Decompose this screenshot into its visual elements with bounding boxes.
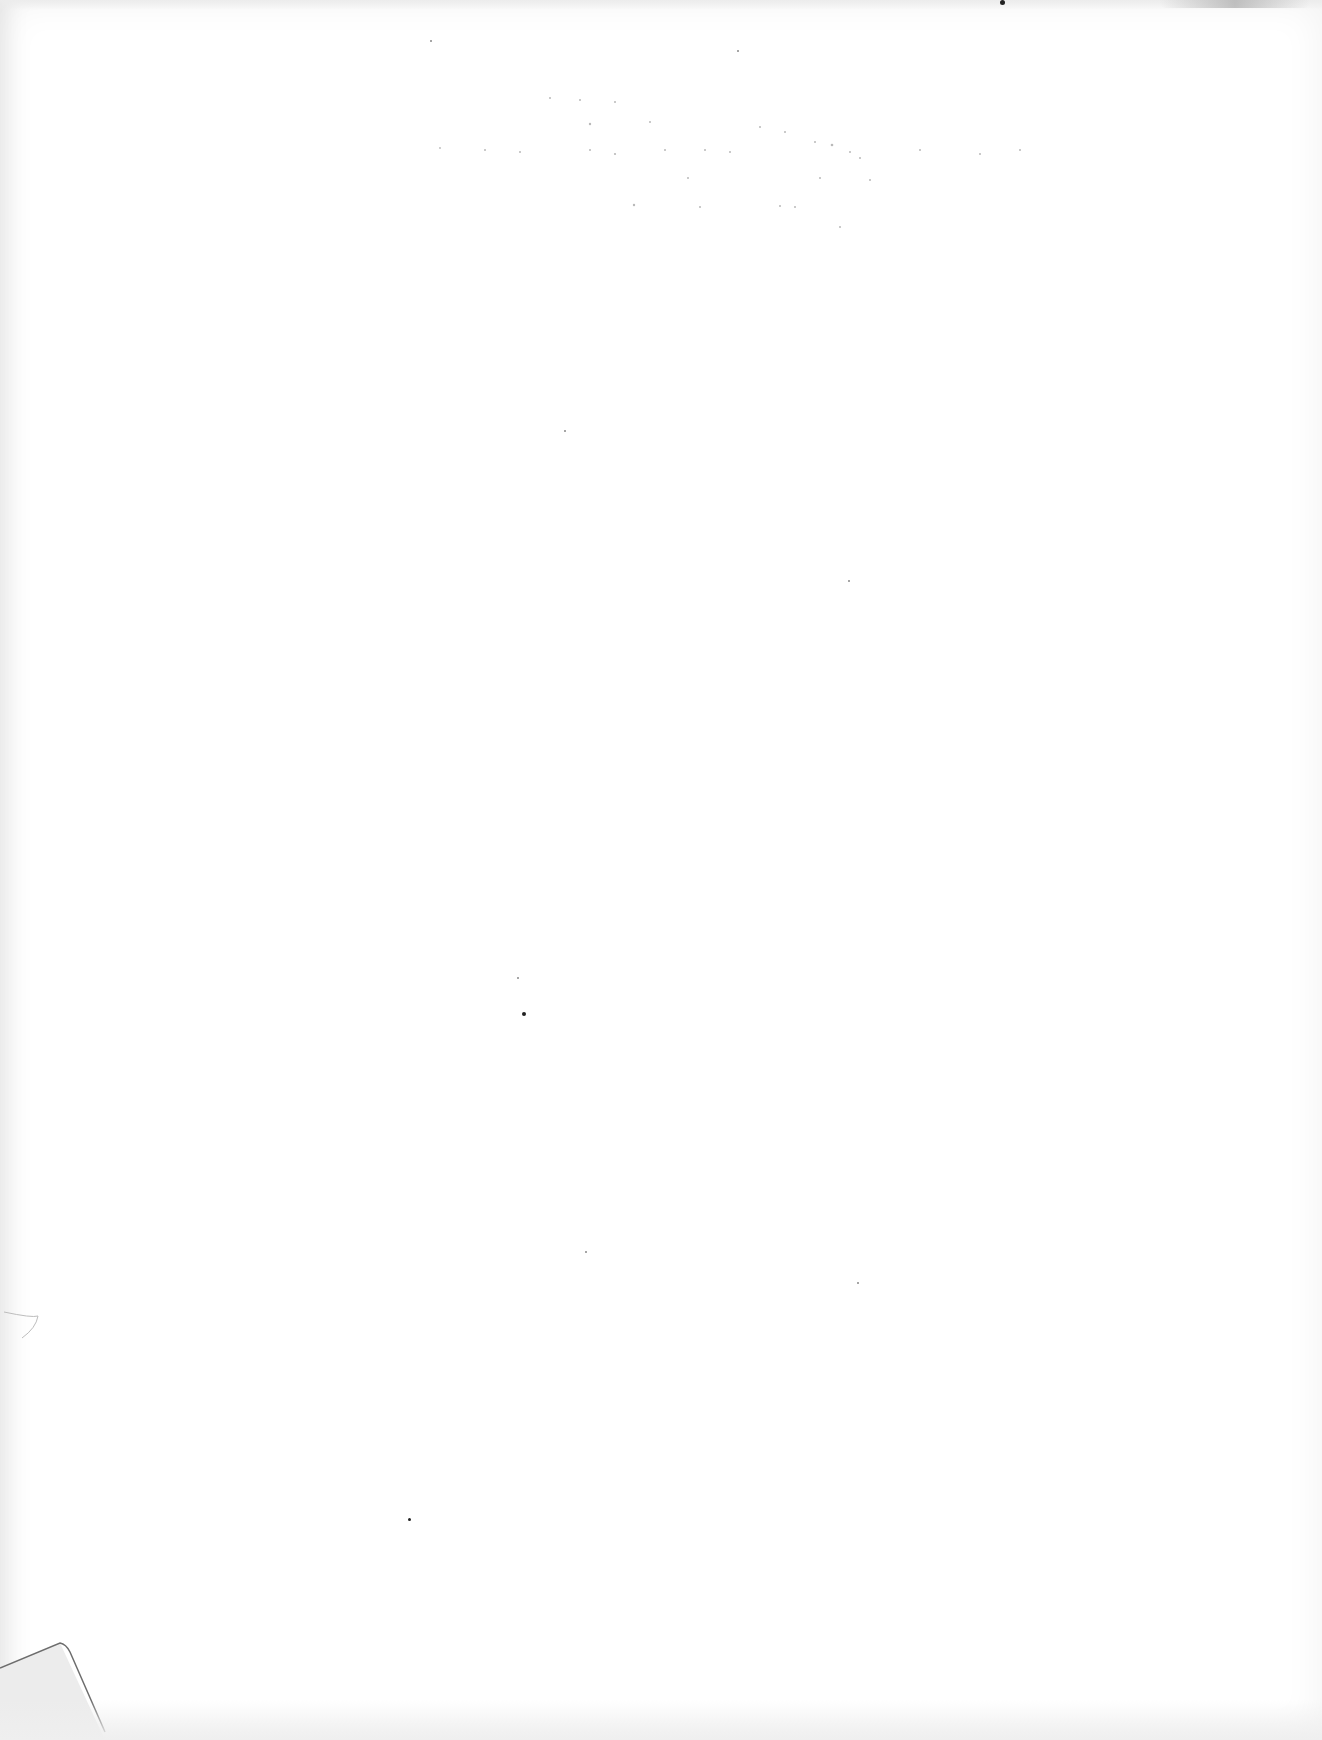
ink-speck [522,1012,526,1016]
ink-speck [564,430,566,432]
ink-speck [430,40,432,42]
ink-speck [517,977,519,979]
scanned-page [0,0,1322,1740]
top-right-edge-shadow [1160,0,1310,8]
ink-speck [737,50,739,52]
bottom-edge-shadow [0,1700,1322,1740]
bleed-through-speckles [420,70,1080,230]
top-edge-shadow [0,0,1322,10]
ink-speck [585,1251,587,1253]
ink-speck [848,580,850,582]
paper-crease-mark [2,1310,42,1340]
ink-speck [408,1518,411,1521]
ink-speck [1000,0,1005,5]
ink-speck [857,1282,859,1284]
